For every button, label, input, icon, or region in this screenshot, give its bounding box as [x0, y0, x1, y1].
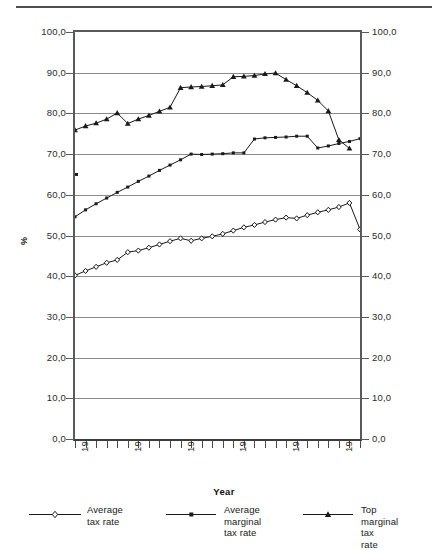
y-axis-tick-mark — [362, 276, 369, 277]
square-data-point-marker — [137, 180, 140, 183]
square-data-point-marker — [295, 135, 298, 138]
y-axis-tick-mark — [66, 195, 73, 196]
x-axis-tick-mark — [159, 441, 160, 448]
square-data-point-marker — [190, 153, 193, 156]
diamond-data-point-marker — [284, 215, 289, 220]
square-marker-icon — [166, 510, 216, 519]
diamond-data-point-marker — [315, 210, 320, 215]
y-axis-tick-mark — [66, 73, 73, 74]
y-axis-tick-label: 70,0 — [47, 149, 66, 159]
y-axis-tick-mark — [66, 113, 73, 114]
square-data-point-marker — [232, 151, 235, 154]
x-axis-tick-mark — [170, 441, 171, 448]
y-axis-tick-mark — [362, 236, 369, 237]
y-axis-tick-label: 40,0 — [47, 271, 66, 281]
y-axis-tick-label: 70,0 — [372, 149, 391, 159]
triangle-data-point-marker — [114, 110, 120, 115]
y-axis-tick-mark — [66, 154, 73, 155]
square-data-point-marker — [242, 151, 245, 154]
square-data-point-marker — [126, 186, 129, 189]
y-axis-tick-label: 10,0 — [372, 393, 391, 403]
diamond-data-point-marker — [199, 236, 204, 241]
x-axis-tick-mark — [107, 441, 108, 448]
x-axis-tick-mark — [339, 441, 340, 448]
y-axis-tick-mark — [66, 276, 73, 277]
triangle-data-point-marker — [304, 90, 310, 95]
triangle-data-point-marker — [315, 97, 321, 102]
triangle-data-point-marker — [167, 104, 173, 109]
square-data-point-marker — [264, 136, 267, 139]
square-data-point-marker — [285, 136, 288, 139]
diamond-data-point-marker — [273, 217, 278, 222]
triangle-data-point-marker — [336, 137, 342, 142]
square-data-point-marker — [200, 153, 203, 156]
x-axis-tick-mark — [307, 441, 308, 448]
y-axis-tick-mark — [362, 113, 369, 114]
diamond-data-point-marker — [94, 264, 99, 269]
y-axis-title: % — [19, 237, 29, 245]
diamond-data-point-marker — [358, 227, 360, 232]
y-axis-tick-label: 50,0 — [47, 231, 66, 241]
y-axis-tick-label: 20,0 — [372, 353, 391, 363]
square-data-point-marker — [316, 146, 319, 149]
diamond-data-point-marker — [347, 200, 352, 205]
chart-legend: Average tax rate Average marginal tax ra… — [0, 504, 448, 538]
series-3 — [75, 70, 352, 150]
square-data-point-marker — [147, 175, 150, 178]
x-axis-tick-mark — [318, 441, 319, 448]
y-axis-tick-label: 50,0 — [372, 231, 391, 241]
diamond-data-point-marker — [136, 248, 141, 253]
legend-label: Average marginal tax rate — [224, 504, 261, 539]
square-data-point-marker — [169, 164, 172, 167]
y-axis-tick-label: 0,0 — [52, 434, 66, 444]
diamond-data-point-marker — [189, 238, 194, 243]
diamond-data-point-marker — [241, 225, 246, 230]
y-axis-tick-label: 90,0 — [47, 68, 66, 78]
y-axis-tick-label: 40,0 — [372, 271, 391, 281]
x-axis-title: Year — [0, 486, 448, 497]
diamond-data-point-marker — [178, 236, 183, 241]
x-axis-tick-mark — [254, 441, 255, 448]
x-axis-tick-mark — [202, 441, 203, 448]
plot-area — [73, 30, 362, 441]
series-canvas — [75, 32, 360, 439]
diamond-data-point-marker — [231, 228, 236, 233]
diamond-data-point-marker — [294, 216, 299, 221]
square-data-point-marker — [306, 135, 309, 138]
diamond-data-point-marker — [263, 219, 268, 224]
legend-label: Average tax rate — [87, 504, 123, 527]
y-axis-tick-mark — [66, 317, 73, 318]
y-axis-tick-mark — [66, 358, 73, 359]
y-axis-tick-label: 10,0 — [47, 393, 66, 403]
y-axis-tick-mark — [362, 317, 369, 318]
diamond-data-point-marker — [220, 231, 225, 236]
square-data-point-marker — [179, 158, 182, 161]
triangle-data-point-marker — [273, 70, 279, 75]
y-axis-tick-mark — [66, 439, 73, 440]
y-axis-tick-mark — [362, 439, 369, 440]
square-data-point-marker — [105, 197, 108, 200]
x-axis-tick-mark — [276, 441, 277, 448]
x-axis-tick-mark — [286, 441, 287, 448]
y-axis-tick-mark — [362, 154, 369, 155]
legend-label: Top marginal tax rate — [361, 504, 398, 550]
square-data-point-marker — [158, 169, 161, 172]
triangle-data-point-marker — [283, 77, 289, 82]
y-axis-tick-label: 90,0 — [372, 68, 391, 78]
x-axis-tick-mark — [360, 441, 361, 448]
y-axis-tick-label: 80,0 — [372, 108, 391, 118]
y-axis-tick-label: 30,0 — [47, 312, 66, 322]
square-data-point-marker — [327, 144, 330, 147]
y-axis-tick-label: 100,0 — [372, 27, 397, 37]
square-data-point-marker — [359, 137, 361, 140]
y-axis-tick-label: 80,0 — [47, 108, 66, 118]
y-axis-tick-label: 30,0 — [372, 312, 391, 322]
x-axis-tick-mark — [96, 441, 97, 448]
y-axis-tick-mark — [66, 398, 73, 399]
y-axis-tick-label: 60,0 — [372, 190, 391, 200]
y-axis-tick-mark — [362, 398, 369, 399]
square-data-point-marker — [253, 138, 256, 141]
square-data-point-marker — [274, 136, 277, 139]
square-data-point-marker — [84, 208, 87, 211]
y-axis-tick-mark — [362, 358, 369, 359]
